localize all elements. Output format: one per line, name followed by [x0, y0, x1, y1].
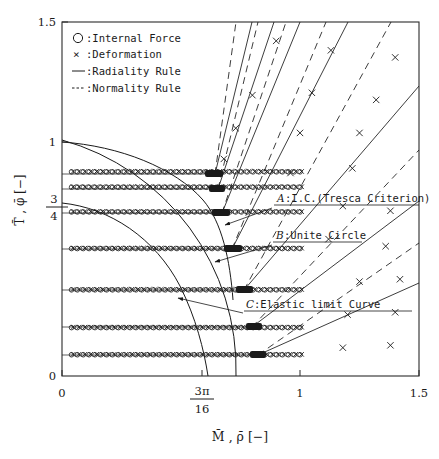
- annotation-A: A :I.C.(Tresca Criterion): [276, 192, 430, 204]
- annotation-C-text: :Elastic limit Curve: [254, 298, 380, 310]
- y-axis-title-text: T̄ , φ̄ [−]: [12, 174, 27, 225]
- legend-label-normality-rule: :Normality Rule: [86, 82, 181, 94]
- x-tick-label-1p5: 1.5: [410, 386, 428, 400]
- y-tick-label-0: 0: [49, 369, 56, 383]
- x-tick-label-3pi-over-16: 3π 16: [190, 384, 214, 416]
- legend-label-radiality-rule: :Radiality Rule: [86, 65, 181, 77]
- legend-entry-deformation: × :Deformation: [73, 48, 162, 61]
- annotation-B: B :Unite Circle: [275, 229, 366, 241]
- annotation-C: C :Elastic limit Curve: [246, 298, 380, 310]
- y-tick-label-3over4-numerator: 3: [50, 192, 57, 206]
- figure-root: :Internal Force × :Deformation :Radialit…: [0, 0, 439, 459]
- x-tick-label-denominator: 16: [195, 402, 210, 416]
- plot-canvas: :Internal Force × :Deformation :Radialit…: [0, 0, 439, 459]
- legend-entry-normality: :Normality Rule: [72, 82, 181, 94]
- legend-label-internal-force: :Internal Force: [86, 32, 181, 44]
- y-tick-label-1: 1: [49, 135, 56, 149]
- x-tick-label-numerator: 3π: [195, 384, 210, 398]
- annotation-B-key: B: [275, 229, 284, 241]
- y-tick-label-1p5: 1.5: [38, 15, 56, 29]
- x-tick-label-0: 0: [58, 386, 65, 400]
- y-tick-label-3over4: 3 4: [46, 192, 62, 223]
- legend-entry-internal-force: :Internal Force: [73, 32, 180, 44]
- annotation-A-key: A: [276, 192, 285, 204]
- cross-marker-icon: ×: [73, 48, 80, 61]
- legend-entry-radiality: :Radiality Rule: [72, 65, 181, 77]
- x-tick-label-1: 1: [296, 386, 303, 400]
- annotation-C-key: C: [246, 298, 254, 310]
- y-tick-label-3over4-denominator: 4: [50, 209, 57, 223]
- x-axis: 0 3π 16 1 1.5: [58, 370, 428, 416]
- y-axis-title: T̄ , φ̄ [−]: [12, 174, 27, 225]
- annotation-B-text: :Unite Circle: [284, 229, 366, 241]
- legend-label-deformation: :Deformation: [86, 48, 162, 60]
- annotation-A-text: :I.C.(Tresca Criterion): [285, 192, 430, 204]
- x-axis-title: M̄ , ρ̄ [−]: [212, 429, 268, 444]
